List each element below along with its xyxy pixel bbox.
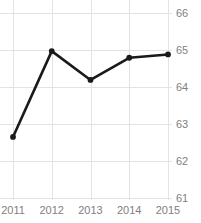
y-axis-tick-label: 65 bbox=[176, 45, 201, 56]
x-axis-tick-label: 2014 bbox=[109, 205, 149, 216]
x-axis-tick-label: 2013 bbox=[71, 205, 111, 216]
y-axis-tick-label: 61 bbox=[176, 193, 201, 204]
y-axis-tick-label: 63 bbox=[176, 119, 201, 130]
plot-area bbox=[0, 0, 172, 200]
x-axis-tick-label: 2011 bbox=[0, 205, 33, 216]
y-axis-tick-label: 62 bbox=[176, 156, 201, 167]
freedom-trend-chart: Freedom Trend 666564636261 2011201220132… bbox=[0, 0, 201, 223]
chart-series-layer bbox=[0, 0, 172, 200]
x-axis-tick-label: 2015 bbox=[148, 205, 188, 216]
data-point-marker[interactable] bbox=[88, 77, 94, 83]
x-axis-tick-label: 2012 bbox=[32, 205, 72, 216]
y-axis-tick-label: 64 bbox=[176, 82, 201, 93]
data-point-marker[interactable] bbox=[126, 55, 132, 61]
data-point-marker[interactable] bbox=[10, 134, 16, 140]
data-point-marker[interactable] bbox=[165, 52, 171, 58]
data-point-marker[interactable] bbox=[49, 48, 55, 54]
series-line bbox=[13, 51, 168, 137]
y-axis-tick-label: 66 bbox=[176, 8, 201, 19]
